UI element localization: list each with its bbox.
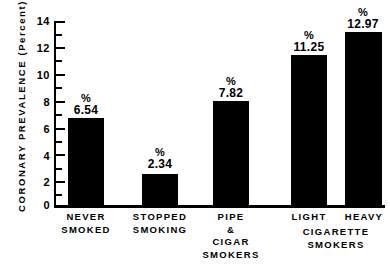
x-label-line: HEAVY [345, 211, 384, 222]
y-axis-tick-minor [56, 194, 62, 196]
group-label-line: CIGARETTE [303, 226, 370, 237]
bar-never-smoked [68, 118, 104, 205]
x-label-line: STOPPED [133, 211, 187, 222]
x-label-line: NEVER [66, 211, 105, 222]
x-axis-line [54, 205, 385, 208]
y-axis-tick-major [56, 154, 65, 156]
y-axis-title-container: CORONARY PREVALENCE (Percent) [0, 0, 22, 215]
y-axis-tick-minor [56, 60, 62, 62]
y-tick-label: 2 [28, 177, 50, 188]
y-axis-tick-major [56, 181, 65, 183]
x-axis-label-heavy: HEAVY [334, 211, 390, 224]
bar-value: 12.97 [327, 18, 390, 31]
bar-chart-figure: CORONARY PREVALENCE (Percent) 14 12 10 8… [0, 0, 390, 275]
bar-value-label: % 7.82 [195, 75, 267, 100]
x-label-line: SMOKING [133, 224, 188, 235]
bar-stopped-smoking [142, 174, 178, 205]
bar-value-label: % 6.54 [50, 92, 122, 117]
y-tick-label: 12 [28, 43, 50, 54]
y-axis-tick-minor [56, 141, 62, 143]
bar-value-label: % 11.25 [273, 29, 345, 54]
bar-pipe-and-cigar-smokers [213, 101, 249, 205]
x-axis-label-pipe-and-cigar-smokers: PIPE & CIGAR SMOKERS [195, 211, 267, 261]
bar-value: 11.25 [273, 41, 345, 54]
bar-light-cigarette-smokers [291, 55, 327, 205]
x-label-line: LIGHT [292, 211, 327, 222]
y-tick-label: 6 [28, 124, 50, 135]
y-tick-label: 8 [28, 97, 50, 108]
y-axis-tick-minor [56, 34, 62, 36]
y-axis-tick-major [56, 21, 65, 23]
bar-value: 7.82 [195, 87, 267, 100]
bar-heavy-cigarette-smokers [345, 32, 382, 205]
y-axis-tick-major [56, 128, 65, 130]
x-axis-group-label-cigarette-smokers: CIGARETTE SMOKERS [281, 226, 390, 251]
y-tick-label: 10 [28, 70, 50, 81]
bar-value: 2.34 [124, 158, 196, 171]
x-label-line: SMOKED [61, 224, 111, 235]
x-label-line: CIGAR [212, 236, 249, 247]
x-axis-label-stopped-smoking: STOPPED SMOKING [124, 211, 196, 236]
y-axis-tick-labels: 14 12 10 8 6 4 2 0 [26, 0, 50, 215]
y-tick-label: 14 [28, 16, 50, 27]
y-tick-label: 4 [28, 151, 50, 162]
x-label-line: PIPE [218, 211, 245, 222]
y-tick-label: 0 [28, 200, 50, 211]
x-axis-label-light: LIGHT [279, 211, 339, 224]
bar-value-label: % 2.34 [124, 146, 196, 171]
y-axis-tick-minor [56, 87, 62, 89]
group-label-line: SMOKERS [307, 239, 364, 250]
bar-value: 6.54 [50, 104, 122, 117]
y-axis-tick-major [56, 47, 65, 49]
x-label-line: SMOKERS [202, 249, 259, 260]
y-axis-tick-minor [56, 168, 62, 170]
x-axis-label-never-smoked: NEVER SMOKED [50, 211, 122, 236]
x-label-line: & [227, 224, 235, 235]
bar-value-label: % 12.97 [327, 6, 390, 31]
y-axis-tick-major [56, 74, 65, 76]
